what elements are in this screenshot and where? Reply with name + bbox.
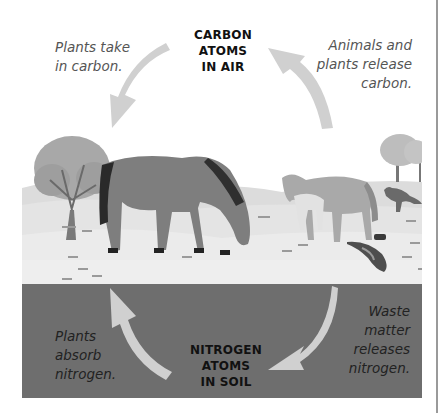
heading-line: ATOMS — [186, 358, 266, 374]
arrow-waste-releases-nitrogen-icon — [268, 286, 338, 370]
arrow-plants-take-carbon-icon — [110, 43, 170, 128]
caption-line: nitrogen. — [330, 359, 410, 378]
heading-line: NITROGEN — [186, 342, 266, 358]
caption-line: matter — [330, 321, 410, 340]
heading-line: IN SOIL — [186, 374, 266, 390]
caption-waste-releases-nitrogen: Waste matter releases nitrogen. — [330, 302, 410, 378]
arrow-plants-absorb-nitrogen-icon — [110, 288, 172, 380]
arrow-animals-release-carbon-icon — [268, 48, 333, 129]
caption-line: Plants — [55, 327, 116, 346]
small-animal-icon — [374, 234, 386, 240]
carbon-cycle-arrows — [0, 0, 440, 140]
caption-line: Waste — [330, 302, 410, 321]
caption-plants-absorb-nitrogen: Plants absorb nitrogen. — [55, 327, 116, 384]
heading-nitrogen-atoms-in-soil: NITROGEN ATOMS IN SOIL — [186, 342, 266, 390]
caption-line: releases — [330, 340, 410, 359]
caption-line: nitrogen. — [55, 365, 116, 384]
caption-line: absorb — [55, 346, 116, 365]
